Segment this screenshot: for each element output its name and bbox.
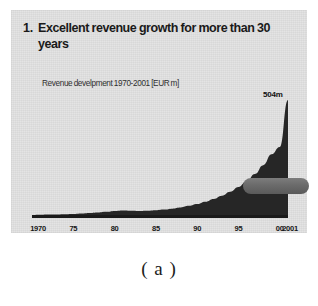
x-axis-line [32, 215, 288, 218]
page-title: Excellent revenue growth for more than 3… [38, 21, 298, 52]
figure-container: 1. Excellent revenue growth for more tha… [0, 0, 318, 306]
x-axis-tick-2001: 2001 [282, 224, 298, 233]
x-axis-tick-85: 85 [152, 224, 160, 233]
callout-pill[interactable] [243, 178, 309, 194]
x-axis-tick-1970: 1970 [30, 224, 46, 233]
x-axis-tick-95: 95 [235, 224, 243, 233]
slide-panel: 1. Excellent revenue growth for more tha… [11, 10, 307, 233]
peak-value-label: 504m [263, 90, 283, 99]
x-axis-tick-labels: 19707580859095002001 [32, 224, 304, 236]
slide-title-block: 1. Excellent revenue growth for more tha… [23, 21, 298, 52]
x-axis-tick-75: 75 [69, 224, 77, 233]
figure-caption: ( a ) [0, 258, 318, 280]
revenue-area-chart [32, 98, 304, 226]
title-number: 1. [23, 21, 33, 36]
x-axis-tick-90: 90 [193, 224, 201, 233]
x-axis-tick-80: 80 [111, 224, 119, 233]
chart-subtitle: Revenue develpment 1970-2001 [EUR m] [42, 79, 179, 88]
area-series-revenue [32, 100, 288, 216]
chart-svg [32, 98, 304, 226]
